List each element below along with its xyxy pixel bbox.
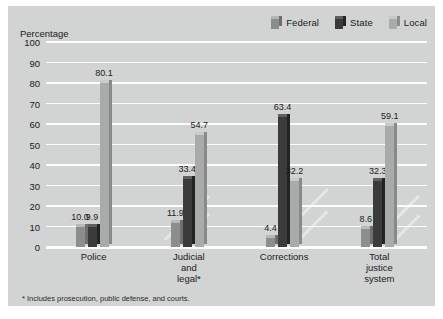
bar-state-1[interactable]: 33.4 bbox=[183, 179, 192, 247]
bar-value-label: 59.1 bbox=[381, 111, 399, 121]
x-axis-line bbox=[46, 247, 427, 249]
bar-state-2[interactable]: 63.4 bbox=[278, 117, 287, 247]
bar-local-0[interactable]: 80.1 bbox=[100, 83, 109, 247]
bar-value-label: 33.4 bbox=[179, 164, 197, 174]
y-axis-tick-label: 10 bbox=[29, 221, 40, 232]
bar-front-face bbox=[88, 227, 97, 247]
bar-value-label: 80.1 bbox=[95, 68, 113, 78]
bar-top-face bbox=[183, 176, 192, 179]
bar-front-face bbox=[385, 126, 394, 247]
bar-value-label: 4.4 bbox=[264, 223, 277, 233]
y-axis-tick-label: 100 bbox=[24, 37, 40, 48]
bar-front-face bbox=[76, 227, 85, 248]
bar-front-face bbox=[183, 179, 192, 247]
chart-footnote: * Includes prosecution, public defense, … bbox=[22, 294, 190, 303]
bar-top-face bbox=[88, 224, 97, 227]
y-axis-tick-label: 90 bbox=[29, 57, 40, 68]
bar-group: 4.463.432.2 bbox=[266, 42, 302, 247]
x-axis-category-labels: PoliceJudicial and legal*CorrectionsTota… bbox=[46, 251, 427, 293]
bar-value-label: 8.6 bbox=[360, 214, 373, 224]
y-axis-tick-label: 80 bbox=[29, 78, 40, 89]
bar-value-label: 63.4 bbox=[274, 102, 292, 112]
bar-top-face bbox=[278, 114, 287, 117]
y-axis-tick-label: 30 bbox=[29, 180, 40, 191]
x-axis-label-3: Total justice system bbox=[364, 251, 394, 284]
legend-item-state[interactable]: State bbox=[335, 16, 373, 29]
bar-top-face bbox=[385, 123, 394, 126]
bar-side-face bbox=[109, 80, 112, 244]
bar-top-face bbox=[361, 226, 370, 229]
bar-front-face bbox=[266, 238, 275, 247]
bar-local-1[interactable]: 54.7 bbox=[195, 135, 204, 247]
bar-front-face bbox=[373, 181, 382, 247]
bar-federal-0[interactable]: 10.0 bbox=[76, 227, 85, 248]
bar-group: 11.933.454.7 bbox=[171, 42, 207, 247]
y-axis-tick-label: 0 bbox=[35, 242, 40, 253]
bar-state-3[interactable]: 32.3 bbox=[373, 181, 382, 247]
bar-side-face bbox=[299, 178, 302, 244]
legend-swatch-local-icon bbox=[389, 16, 400, 29]
bar-federal-3[interactable]: 8.6 bbox=[361, 229, 370, 247]
bar-federal-2[interactable]: 4.4 bbox=[266, 238, 275, 247]
legend-item-federal[interactable]: Federal bbox=[271, 16, 319, 29]
bar-value-label: 32.3 bbox=[369, 166, 387, 176]
bar-top-face bbox=[100, 80, 109, 83]
bar-state-0[interactable]: 9.9 bbox=[88, 227, 97, 247]
bar-value-label: 9.9 bbox=[86, 212, 99, 222]
chart-frame: Percentage Federal State Local bbox=[8, 6, 435, 306]
bar-side-face bbox=[394, 123, 397, 244]
bar-front-face bbox=[278, 117, 287, 247]
bar-front-face bbox=[171, 223, 180, 247]
bar-front-face bbox=[100, 83, 109, 247]
x-axis-label-2: Corrections bbox=[260, 251, 309, 262]
bar-group: 10.09.980.1 bbox=[76, 42, 112, 247]
chart-legend: Federal State Local bbox=[271, 14, 427, 30]
bar-front-face bbox=[195, 135, 204, 247]
bar-top-face bbox=[373, 178, 382, 181]
legend-swatch-state-icon bbox=[335, 16, 346, 29]
y-axis-tick-label: 70 bbox=[29, 98, 40, 109]
legend-item-local[interactable]: Local bbox=[389, 16, 427, 29]
bar-side-face bbox=[204, 132, 207, 244]
bar-local-3[interactable]: 59.1 bbox=[385, 126, 394, 247]
legend-label-federal: Federal bbox=[286, 17, 319, 28]
bar-value-label: 54.7 bbox=[191, 120, 209, 130]
bar-value-label: 32.2 bbox=[286, 166, 304, 176]
bar-top-face bbox=[76, 224, 85, 227]
x-axis-label-0: Police bbox=[81, 251, 107, 262]
bar-top-face bbox=[171, 220, 180, 223]
x-axis-label-1: Judicial and legal* bbox=[173, 251, 205, 284]
bar-top-face bbox=[290, 178, 299, 181]
bar-top-face bbox=[195, 132, 204, 135]
bar-front-face bbox=[361, 229, 370, 247]
bar-group: 8.632.359.1 bbox=[361, 42, 397, 247]
y-axis-tick-label: 50 bbox=[29, 139, 40, 150]
plot-area: 010203040506070809010010.09.980.111.933.… bbox=[46, 42, 427, 247]
bar-local-2[interactable]: 32.2 bbox=[290, 181, 299, 247]
y-axis-tick-label: 40 bbox=[29, 160, 40, 171]
bar-federal-1[interactable]: 11.9 bbox=[171, 223, 180, 247]
bar-top-face bbox=[266, 235, 275, 238]
bar-front-face bbox=[290, 181, 299, 247]
y-axis-tick-label: 60 bbox=[29, 119, 40, 130]
bar-value-label: 11.9 bbox=[167, 208, 184, 218]
legend-swatch-federal-icon bbox=[271, 16, 282, 29]
legend-label-state: State bbox=[350, 17, 373, 28]
y-axis-tick-label: 20 bbox=[29, 201, 40, 212]
legend-label-local: Local bbox=[404, 17, 427, 28]
